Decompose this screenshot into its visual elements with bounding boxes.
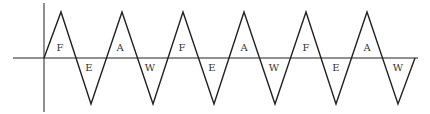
- triangle-wave-diagram: FEAWFEAWFEAW: [0, 0, 430, 114]
- segment-label: E: [208, 62, 215, 73]
- segment-label: E: [85, 62, 92, 73]
- segment-label: A: [115, 42, 124, 53]
- segment-label: A: [239, 42, 248, 53]
- segment-label: W: [269, 62, 280, 73]
- segment-label: W: [393, 62, 404, 73]
- segment-label: E: [332, 62, 339, 73]
- segment-label: F: [303, 42, 310, 53]
- segment-label: A: [362, 42, 371, 53]
- segment-label: F: [57, 42, 64, 53]
- segment-label: F: [179, 42, 186, 53]
- segment-label: W: [145, 62, 156, 73]
